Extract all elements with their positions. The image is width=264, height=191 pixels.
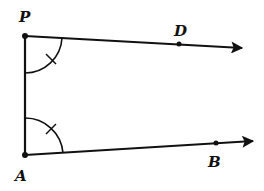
geometry-diagram: P A D B	[0, 0, 264, 191]
angle-arc-a	[25, 118, 63, 153]
label-b: B	[207, 153, 221, 171]
angle-arc-p	[25, 38, 62, 73]
ray-pd	[25, 36, 242, 48]
point-p	[22, 33, 28, 39]
label-p: P	[18, 8, 31, 26]
label-d: D	[173, 22, 187, 40]
point-d	[177, 42, 182, 47]
point-a	[22, 152, 28, 158]
point-b	[214, 141, 219, 146]
label-a: A	[13, 167, 27, 185]
